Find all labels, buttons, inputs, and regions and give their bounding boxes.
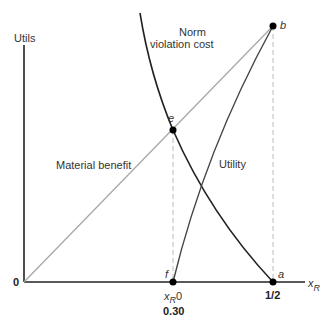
- tick-xr0: xR0: [163, 290, 182, 305]
- origin-label: 0: [13, 276, 19, 288]
- utility-curve: [173, 26, 273, 282]
- norm-label-line2: violation cost: [150, 38, 214, 50]
- point-a: [270, 279, 277, 286]
- material-benefit-line: [24, 26, 273, 282]
- x-axis-label: xR: [307, 277, 321, 293]
- point-f-label: f: [165, 268, 169, 280]
- tick-xr0-value: 0.30: [163, 305, 184, 317]
- point-e-label: e: [168, 112, 174, 124]
- material-benefit-label: Material benefit: [56, 159, 131, 171]
- point-a-label: a: [278, 268, 284, 280]
- point-b: [270, 23, 277, 30]
- point-f: [170, 279, 177, 286]
- utility-diagram: Utils 0 Norm violation cost Material ben…: [0, 0, 334, 327]
- norm-violation-cost-curve: [140, 13, 273, 282]
- point-b-label: b: [280, 19, 286, 31]
- y-axis-label: Utils: [14, 32, 36, 44]
- utility-label: Utility: [219, 158, 246, 170]
- point-e: [170, 127, 177, 134]
- tick-half: 1/2: [265, 289, 280, 301]
- norm-label-line1: Norm: [179, 26, 206, 38]
